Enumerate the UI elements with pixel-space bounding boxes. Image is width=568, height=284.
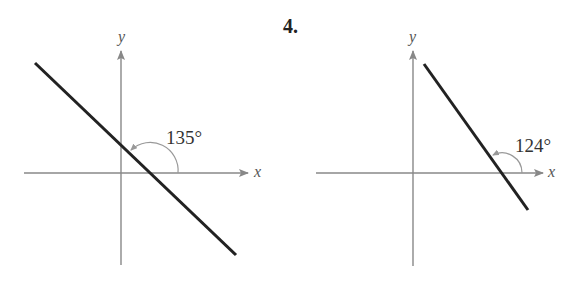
angle-label: 135° (166, 127, 202, 148)
graph-line (35, 63, 236, 255)
x-axis-label: x (547, 163, 555, 180)
graph-line (424, 64, 528, 210)
graph-right: y x 124° (316, 28, 555, 266)
graph-left: y x 135° (24, 28, 261, 265)
problem-number: 4. (283, 15, 298, 37)
x-axis-label: x (253, 163, 261, 180)
y-axis-label: y (116, 28, 126, 46)
angle-label: 124° (515, 135, 551, 156)
figure: 4. y x 135° y x 124° (0, 0, 568, 284)
y-axis-label: y (407, 28, 417, 46)
